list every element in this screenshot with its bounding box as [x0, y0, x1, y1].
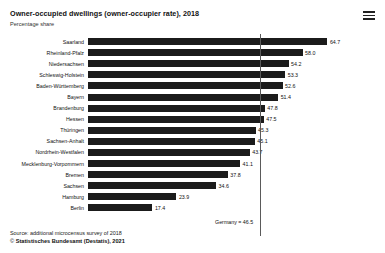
bar-value-label: 64.7 [330, 39, 340, 45]
bar[interactable] [88, 38, 327, 45]
bar[interactable] [88, 160, 240, 167]
bar-track: 37.8 [88, 169, 375, 180]
menu-bar-1 [363, 11, 375, 12]
bar-value-label: 41.1 [243, 161, 253, 167]
bar-value-label: 37.8 [230, 172, 240, 178]
bar-track: 47.5 [88, 114, 375, 125]
bar-row: Bremen37.8 [10, 169, 375, 180]
bar-value-label: 54.2 [291, 61, 301, 67]
source-note: Source: additional microcensus survey of… [10, 229, 260, 237]
category-label: Nordrhein-Westfalen [10, 149, 88, 155]
bar-row: Thüringen45.3 [10, 125, 375, 136]
category-label: Thüringen [10, 127, 88, 133]
category-label: Hamburg [10, 194, 88, 200]
bar-track: 53.3 [88, 69, 375, 80]
bar-value-label: 58.0 [305, 50, 315, 56]
bar-row: Bayern51.4 [10, 91, 375, 102]
bar-track: 41.1 [88, 158, 375, 169]
bar-row: Baden-Württemberg52.6 [10, 80, 375, 91]
bar[interactable] [88, 105, 265, 112]
copyright-text: Statistisches Bundesamt (Destatis), 2021 [16, 238, 125, 244]
category-label: Niedersachsen [10, 61, 88, 67]
bar-value-label: 34.6 [219, 183, 229, 189]
bar[interactable] [88, 138, 255, 145]
bar-value-label: 43.7 [252, 149, 262, 155]
page-title: Owner-occupied dwellings (owner-occupier… [10, 9, 375, 18]
bar-value-label: 53.3 [288, 72, 298, 78]
category-label: Sachsen-Anhalt [10, 138, 88, 144]
bar-track: 23.9 [88, 191, 375, 202]
copyright-note: © Statistisches Bundesamt (Destatis), 20… [10, 237, 260, 245]
bar-value-label: 23.9 [179, 194, 189, 200]
bar-row: Rheinland-Pfalz58.0 [10, 47, 375, 58]
bar-row: Niedersachsen54.2 [10, 58, 375, 69]
category-label: Hessen [10, 116, 88, 122]
chart-plot-area: Saarland64.7Rheinland-Pfalz58.0Niedersac… [10, 36, 375, 216]
bar-value-label: 47.5 [266, 116, 276, 122]
chart-page: Owner-occupied dwellings (owner-occupier… [0, 0, 385, 253]
bar-row: Saarland64.7 [10, 36, 375, 47]
chart-subtitle: Percentage share [10, 20, 375, 28]
bar-value-label: 51.4 [281, 94, 291, 100]
bar-row: Berlin17.4 [10, 202, 375, 213]
category-label: Saarland [10, 39, 88, 45]
chart-footer: Source: additional microcensus survey of… [10, 229, 260, 245]
bar-value-label: 52.6 [285, 83, 295, 89]
bar-value-label: 17.4 [155, 205, 165, 211]
category-label: Baden-Württemberg [10, 83, 88, 89]
bar-track: 58.0 [88, 47, 375, 58]
bar-track: 17.4 [88, 202, 375, 213]
bar-track: 47.8 [88, 103, 375, 114]
bar-row: Hessen47.5 [10, 114, 375, 125]
bar-row: Hamburg23.9 [10, 191, 375, 202]
bar-row: Mecklenburg-Vorpommern41.1 [10, 158, 375, 169]
bar[interactable] [88, 204, 152, 211]
bar[interactable] [88, 127, 256, 134]
bar[interactable] [88, 116, 264, 123]
bar[interactable] [88, 182, 216, 189]
category-label: Berlin [10, 205, 88, 211]
category-label: Rheinland-Pfalz [10, 50, 88, 56]
bar-track: 51.4 [88, 91, 375, 102]
bar-row: Schleswig-Holstein53.3 [10, 69, 375, 80]
bar[interactable] [88, 171, 228, 178]
copyright-symbol: © [10, 238, 14, 244]
bar[interactable] [88, 94, 278, 101]
bar-value-label: 45.1 [257, 138, 267, 144]
category-label: Brandenburg [10, 105, 88, 111]
germany-reference-line [260, 34, 261, 236]
bar[interactable] [88, 49, 303, 56]
chart-header: Owner-occupied dwellings (owner-occupier… [10, 9, 375, 28]
bar-track: 45.3 [88, 125, 375, 136]
bar[interactable] [88, 149, 250, 156]
menu-bar-3 [363, 18, 375, 19]
category-label: Schleswig-Holstein [10, 72, 88, 78]
bar-track: 45.1 [88, 136, 375, 147]
menu-bar-2 [363, 15, 375, 16]
category-label: Mecklenburg-Vorpommern [10, 161, 88, 167]
category-label: Bayern [10, 94, 88, 100]
bar[interactable] [88, 71, 285, 78]
bar-track: 64.7 [88, 36, 375, 47]
bar-rows: Saarland64.7Rheinland-Pfalz58.0Niedersac… [10, 36, 375, 216]
bar-row: Sachsen-Anhalt45.1 [10, 136, 375, 147]
bar-row: Sachsen34.6 [10, 180, 375, 191]
hamburger-menu-icon[interactable] [363, 10, 375, 21]
bar-row: Nordrhein-Westfalen43.7 [10, 147, 375, 158]
bar-track: 52.6 [88, 80, 375, 91]
bar-track: 43.7 [88, 147, 375, 158]
category-label: Bremen [10, 172, 88, 178]
category-label: Sachsen [10, 183, 88, 189]
bar-track: 54.2 [88, 58, 375, 69]
bar[interactable] [88, 82, 283, 89]
bar[interactable] [88, 60, 289, 67]
bar-value-label: 47.8 [267, 105, 277, 111]
bar[interactable] [88, 193, 176, 200]
bar-track: 34.6 [88, 180, 375, 191]
bar-row: Brandenburg47.8 [10, 103, 375, 114]
germany-reference-label: Germany = 46.5 [215, 219, 253, 225]
